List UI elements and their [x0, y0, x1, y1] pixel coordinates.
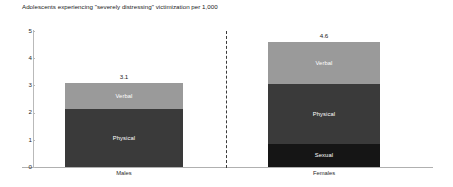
y-axis-tick-mark-3 [33, 85, 35, 86]
y-axis-tick-mark-2 [33, 113, 35, 114]
x-axis-label-females: Females [268, 170, 380, 177]
y-axis-tick-mark-1 [33, 140, 35, 141]
bar-total-label-males: 3.1 [65, 73, 183, 80]
bar-segment-label: Verbal [315, 60, 332, 66]
y-axis-tick-mark-0 [33, 167, 35, 168]
y-axis-tick-mark-4 [33, 58, 35, 59]
y-axis-tick-0: 0 [20, 164, 32, 170]
y-axis-line [33, 30, 34, 168]
bar-segment-sexual[interactable]: Sexual [268, 144, 380, 167]
bar-total-label-females: 4.6 [268, 32, 380, 39]
bar-females[interactable]: VerbalPhysicalSexual [268, 42, 380, 167]
y-axis-tick-4: 4 [20, 55, 32, 61]
chart-title: Adolescents experiencing "severely distr… [22, 3, 252, 11]
y-axis-tick-labels: 012345 [18, 0, 32, 187]
bar-segment-label: Physical [313, 111, 335, 117]
bar-males[interactable]: VerbalPhysical [65, 83, 183, 167]
bar-stack: VerbalPhysicalSexual [268, 42, 380, 167]
group-divider-dashed-line [226, 31, 227, 168]
bar-segment-verbal[interactable]: Verbal [268, 42, 380, 84]
bar-segment-physical[interactable]: Physical [65, 109, 183, 167]
y-axis-tick-5: 5 [20, 28, 32, 34]
bar-segment-label: Physical [113, 135, 135, 141]
bar-segment-label: Sexual [315, 152, 333, 158]
bar-segment-verbal[interactable]: Verbal [65, 83, 183, 109]
bar-stack: VerbalPhysical [65, 83, 183, 167]
bar-segment-label: Verbal [115, 93, 132, 99]
x-axis-line [22, 167, 433, 168]
y-axis-tick-1: 1 [20, 137, 32, 143]
y-axis-tick-3: 3 [20, 82, 32, 88]
y-axis-tick-2: 2 [20, 109, 32, 115]
y-axis-tick-mark-5 [33, 31, 35, 32]
bar-segment-physical[interactable]: Physical [268, 84, 380, 144]
chart-container: Adolescents experiencing "severely distr… [0, 0, 453, 187]
x-axis-label-males: Males [65, 170, 183, 177]
